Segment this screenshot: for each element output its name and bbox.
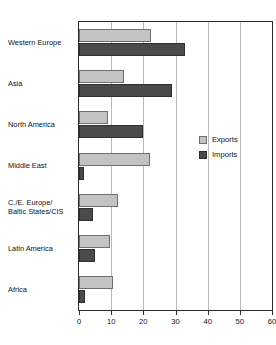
bar-imports-1 <box>79 84 172 97</box>
category-label-line: Latin America <box>8 244 53 253</box>
bar-imports-5 <box>79 249 95 262</box>
category-label-line: Middle East <box>8 161 47 170</box>
x-tick-20 <box>143 311 144 315</box>
bar-exports-1 <box>79 70 124 83</box>
bar-exports-0 <box>79 29 151 42</box>
chart-legend: ExportsImports <box>199 132 238 162</box>
category-label-line: C./E. Europe/ <box>8 198 63 207</box>
legend-item-imports[interactable]: Imports <box>199 147 238 162</box>
x-tick-0 <box>79 311 80 315</box>
x-tick-label-10: 10 <box>107 317 115 326</box>
bar-imports-2 <box>79 125 143 138</box>
bar-chart: Western EuropeAsiaNorth AmericaMiddle Ea… <box>0 0 276 345</box>
category-label-2: North America <box>8 120 55 129</box>
category-axis-labels: Western EuropeAsiaNorth AmericaMiddle Ea… <box>0 21 76 311</box>
bar-exports-2 <box>79 111 108 124</box>
bar-imports-4 <box>79 208 93 221</box>
category-label-1: Asia <box>8 79 22 88</box>
x-tick-40 <box>208 311 209 315</box>
x-tick-30 <box>176 311 177 315</box>
x-tick-label-50: 50 <box>236 317 244 326</box>
category-label-line: Asia <box>8 79 22 88</box>
x-tick-label-30: 30 <box>171 317 179 326</box>
bars-layer <box>79 22 272 310</box>
x-axis: 0102030405060 <box>0 311 276 345</box>
x-tick-50 <box>240 311 241 315</box>
x-tick-label-0: 0 <box>77 317 81 326</box>
legend-label-imports: Imports <box>212 150 237 159</box>
category-label-line: Western Europe <box>8 38 61 47</box>
x-tick-10 <box>111 311 112 315</box>
category-label-line: North America <box>8 120 55 129</box>
bar-exports-3 <box>79 153 150 166</box>
category-label-4: C./E. Europe/Baltic States/CIS <box>8 198 63 216</box>
bar-exports-5 <box>79 235 110 248</box>
category-label-5: Latin America <box>8 244 53 253</box>
legend-swatch-exports-icon <box>199 136 207 144</box>
category-label-0: Western Europe <box>8 38 61 47</box>
bar-exports-6 <box>79 276 113 289</box>
legend-label-exports: Exports <box>212 135 238 144</box>
legend-item-exports[interactable]: Exports <box>199 132 238 147</box>
legend-swatch-imports-icon <box>199 151 207 159</box>
x-tick-label-20: 20 <box>139 317 147 326</box>
bar-imports-3 <box>79 167 84 180</box>
bar-imports-0 <box>79 43 185 56</box>
category-label-3: Middle East <box>8 161 47 170</box>
bar-exports-4 <box>79 194 118 207</box>
category-label-line: Baltic States/CIS <box>8 207 63 216</box>
category-label-line: Africa <box>8 285 27 294</box>
category-label-6: Africa <box>8 285 27 294</box>
bar-imports-6 <box>79 290 85 303</box>
x-tick-label-60: 60 <box>268 317 276 326</box>
x-tick-label-40: 40 <box>203 317 211 326</box>
x-tick-60 <box>272 311 273 315</box>
